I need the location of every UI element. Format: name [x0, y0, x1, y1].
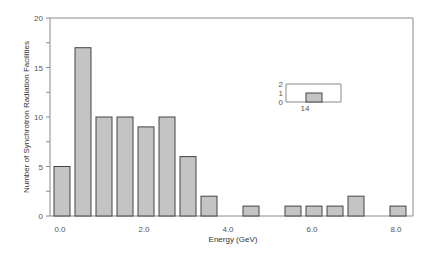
bar	[159, 117, 175, 216]
x-tick-label: 8.0	[390, 225, 402, 234]
bar	[327, 206, 343, 216]
bar	[390, 206, 406, 216]
x-tick-label: 4.0	[222, 225, 234, 234]
inset-y-tick-label: 0	[279, 98, 284, 107]
y-tick-label: 10	[34, 113, 43, 122]
bars	[54, 48, 406, 216]
x-tick-label: 0.0	[54, 225, 66, 234]
bar	[75, 48, 91, 216]
bar	[306, 206, 322, 216]
bar	[138, 127, 154, 216]
inset-bar	[306, 93, 322, 102]
inset-bars	[306, 93, 322, 102]
inset-y-tick-label: 2	[279, 80, 284, 89]
inset-y-ticks: 012	[279, 80, 284, 107]
y-tick-label: 0	[39, 212, 44, 221]
bar	[201, 196, 217, 216]
y-tick-label: 20	[34, 14, 43, 23]
inset-y-tick-label: 1	[279, 89, 284, 98]
histogram-chart: 05101520 0.02.04.06.08.0 Energy (GeV) Nu…	[0, 0, 433, 257]
bar	[54, 167, 70, 217]
bar	[348, 196, 364, 216]
bar	[180, 157, 196, 216]
x-axis-ticks: 0.02.04.06.08.0	[54, 225, 402, 234]
y-axis-label: Number of Synchrotron Radiation Faciliti…	[22, 41, 31, 193]
x-axis-label: Energy (GeV)	[209, 235, 258, 244]
x-tick-label: 6.0	[306, 225, 318, 234]
inset-x-tick-label: 14	[301, 104, 310, 113]
y-tick-label: 15	[34, 64, 43, 73]
bar	[243, 206, 259, 216]
bar	[117, 117, 133, 216]
bar	[285, 206, 301, 216]
y-axis-ticks: 05101520	[34, 14, 50, 221]
inset-chart: 012 14	[279, 80, 341, 113]
bar	[96, 117, 112, 216]
y-tick-label: 5	[39, 163, 44, 172]
x-tick-label: 2.0	[138, 225, 150, 234]
